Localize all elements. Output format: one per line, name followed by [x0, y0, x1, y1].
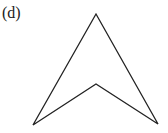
arrowhead-diagram — [0, 0, 168, 133]
arrowhead-shape — [33, 14, 158, 125]
